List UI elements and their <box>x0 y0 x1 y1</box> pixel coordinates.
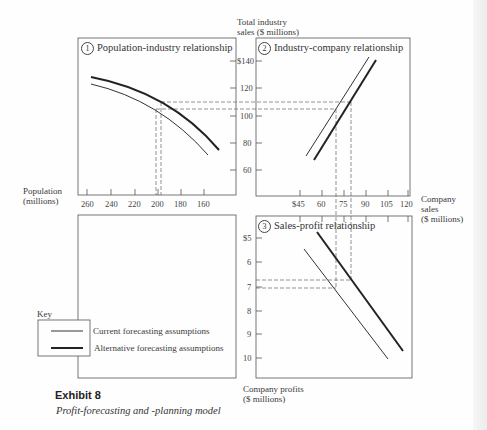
panel-1-current-curve <box>91 84 208 155</box>
tick-label: 90 <box>361 199 370 209</box>
tick-label: 60 <box>243 165 252 175</box>
legend-title: Key <box>37 309 52 319</box>
tick-label: 100 <box>240 111 253 121</box>
panel-title-text: Sales-profit relationship <box>274 220 375 231</box>
panel-2-title: 2Industry-company relationship <box>258 42 403 55</box>
legend-item-alternative: Alternative forecasting assumptions <box>94 343 223 353</box>
panel-number-badge: 2 <box>258 42 271 55</box>
profits-axis-label: Company profits($ millions) <box>243 384 304 404</box>
tick-label: 260 <box>81 199 94 209</box>
panel-3-alternative-line <box>317 232 403 351</box>
panel-1-frame <box>78 38 236 195</box>
tick-label: 75 <box>339 199 348 209</box>
legend-box <box>38 320 90 356</box>
tick-label: 120 <box>240 83 253 93</box>
tick-label: 8 <box>247 306 251 316</box>
panel-1-title: 1Population-industry relationship <box>81 42 233 55</box>
exhibit-subtitle: Profit-forecasting and -planning model <box>56 405 221 416</box>
tick-label: 200 <box>151 199 164 209</box>
legend-item-current: Current forecasting assumptions <box>93 326 209 336</box>
panel-number-badge: 3 <box>258 220 271 233</box>
panel-1-alternative-curve <box>91 77 219 150</box>
tick-label: 6 <box>247 257 251 267</box>
panel-3-title: 3Sales-profit relationship <box>258 220 375 233</box>
exhibit-label: Exhibit 8 <box>55 389 101 401</box>
tick-label: $5 <box>243 233 252 243</box>
tick-label: 80 <box>243 138 252 148</box>
panel-3-current-line <box>304 249 388 359</box>
tick-label: 7 <box>247 282 251 292</box>
tick-label: 160 <box>197 199 210 209</box>
company-sales-axis-label: Companysales($ millions) <box>421 194 463 224</box>
panel-2-alternative-line <box>314 60 376 160</box>
tick-label: 10 <box>243 353 252 363</box>
panel-2-current-line <box>306 57 369 156</box>
panel-number-badge: 1 <box>81 42 94 55</box>
population-axis-label: Population(millions) <box>23 186 62 206</box>
tick-label: 120 <box>400 199 413 209</box>
panel-title-text: Population-industry relationship <box>97 42 233 53</box>
panel-3-frame <box>256 216 412 378</box>
tick-label: 240 <box>105 199 118 209</box>
industry-sales-axis-label: Total industrysales ($ millions) <box>237 17 299 37</box>
tick-label: 60 <box>317 199 326 209</box>
tick-label: 220 <box>128 199 141 209</box>
panel-2-frame <box>256 38 410 196</box>
panel-blank-frame <box>78 215 236 378</box>
tick-label: 105 <box>380 199 393 209</box>
tick-label: $45 <box>292 199 305 209</box>
tick-label: $140 <box>237 56 254 66</box>
tick-label: 180 <box>174 199 187 209</box>
tick-label: 9 <box>247 329 251 339</box>
panel-title-text: Industry-company relationship <box>274 42 403 53</box>
